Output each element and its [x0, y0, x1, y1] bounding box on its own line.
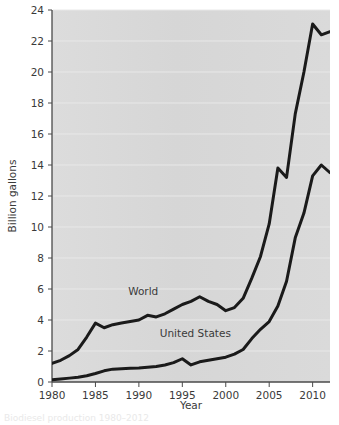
y-tick-label: 10 — [31, 221, 44, 233]
y-tick-label: 2 — [37, 345, 44, 357]
y-axis-title: Billion gallons — [6, 160, 18, 233]
y-tick-label: 0 — [37, 376, 44, 388]
y-tick-label: 22 — [31, 35, 44, 47]
series-label-world: World — [128, 285, 158, 297]
y-tick-label: 12 — [31, 190, 44, 202]
y-tick-label: 8 — [37, 252, 44, 264]
caption-fragment: Biodiesel production 1980–2012 — [4, 413, 149, 423]
x-axis-title: Year — [179, 399, 203, 411]
x-tick-label: 2010 — [299, 389, 326, 401]
y-tick-label: 18 — [31, 97, 44, 109]
x-tick-label: 1980 — [39, 389, 66, 401]
x-tick-label: 2000 — [212, 389, 239, 401]
line-chart: 024681012141618202224 198019851990199520… — [0, 0, 339, 425]
y-tick-label: 24 — [31, 4, 45, 16]
y-tick-label: 16 — [31, 128, 45, 140]
chart-figure: 024681012141618202224 198019851990199520… — [0, 0, 339, 425]
y-tick-label: 14 — [31, 159, 45, 171]
x-tick-label: 2005 — [256, 389, 283, 401]
series-label-united-states: United States — [160, 327, 231, 339]
y-tick-label: 4 — [37, 314, 44, 326]
x-tick-label: 1985 — [82, 389, 109, 401]
x-tick-label: 1990 — [126, 389, 153, 401]
y-tick-label: 6 — [37, 283, 44, 295]
y-tick-label: 20 — [31, 66, 44, 78]
